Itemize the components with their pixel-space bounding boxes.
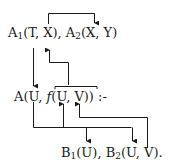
arrow-x-link [49, 14, 95, 25]
arrow-v-to-f [80, 104, 148, 148]
b2-name: B [106, 145, 116, 160]
neck-symbol: :- [98, 89, 107, 104]
a2-name: A [66, 25, 75, 40]
function-args: (U, V)) [51, 89, 94, 104]
arrow-f-to-x [50, 50, 69, 85]
a1-name: A [8, 25, 17, 40]
bus-u [34, 102, 132, 128]
b1-args: (U), [76, 145, 101, 160]
head-prefix: A(U, [14, 89, 47, 104]
clause-body-line: B1(U), B2(U, V). [61, 146, 163, 161]
b1-name: B [61, 145, 71, 160]
clause-head-line: A(U, f(U, V)) :- [14, 90, 107, 103]
a1-args: (T, X), [23, 25, 62, 40]
body-literal-line: A1(T, X), A2(X, Y) [8, 26, 117, 41]
b2-args: (U, V). [121, 145, 163, 160]
unification-diagram: A1(T, X), A2(X, Y) A(U, f(U, V)) :- B1(U… [0, 0, 169, 165]
a2-args: (X, Y) [81, 25, 117, 40]
